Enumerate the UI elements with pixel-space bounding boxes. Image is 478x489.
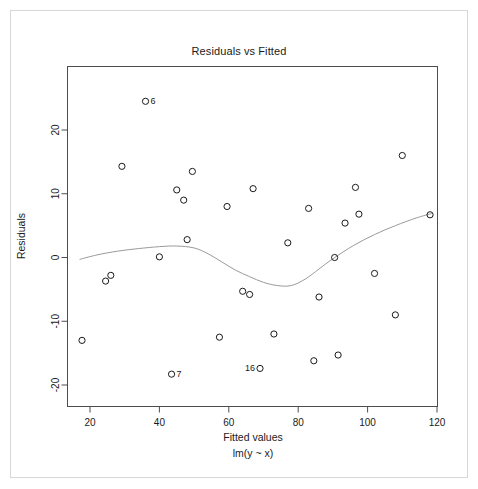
y-axis-title: Residuals xyxy=(15,213,27,259)
plot-frame xyxy=(68,67,438,407)
x-tick-label: 100 xyxy=(359,417,376,428)
x-axis-title: Fitted values xyxy=(223,431,283,443)
x-axis-ticks: 20406080100120 xyxy=(84,407,445,428)
data-point xyxy=(399,152,405,158)
x-tick-label: 40 xyxy=(154,417,166,428)
point-label: 16 xyxy=(245,363,255,373)
data-point xyxy=(156,254,162,260)
lowess-smoother-curve xyxy=(80,214,432,287)
data-point xyxy=(311,358,317,364)
data-point xyxy=(250,186,256,192)
x-axis-subtitle: lm(y ~ x) xyxy=(233,447,274,459)
plot-page: Residuals vs Fitted 20406080100120 20100… xyxy=(0,0,478,489)
x-tick-label: 60 xyxy=(223,417,235,428)
point-label: 7 xyxy=(177,369,182,379)
data-point xyxy=(216,334,222,340)
data-point xyxy=(352,184,358,190)
y-tick-label: -10 xyxy=(50,314,61,329)
data-point xyxy=(103,278,109,284)
data-point xyxy=(174,187,180,193)
data-point xyxy=(240,288,246,294)
x-tick-label: 120 xyxy=(429,417,446,428)
data-point xyxy=(285,240,291,246)
data-point xyxy=(142,98,148,104)
data-point xyxy=(108,272,114,278)
y-tick-label: 10 xyxy=(50,188,61,200)
point-label: 6 xyxy=(151,96,156,106)
data-point xyxy=(271,331,277,337)
x-tick-label: 80 xyxy=(293,417,305,428)
data-point xyxy=(119,163,125,169)
y-tick-label: -20 xyxy=(50,377,61,392)
data-point xyxy=(184,237,190,243)
data-point xyxy=(316,294,322,300)
data-point xyxy=(356,211,362,217)
data-point xyxy=(168,371,174,377)
data-point xyxy=(181,197,187,203)
data-points-layer: 6716 xyxy=(79,96,433,379)
data-point xyxy=(335,352,341,358)
data-point xyxy=(392,312,398,318)
data-point xyxy=(342,220,348,226)
data-point xyxy=(79,337,85,343)
data-point xyxy=(224,203,230,209)
x-tick-label: 20 xyxy=(84,417,96,428)
y-axis-ticks: 20100-10-20 xyxy=(50,124,68,392)
data-point xyxy=(247,291,253,297)
data-point xyxy=(257,365,263,371)
data-point xyxy=(371,270,377,276)
data-point xyxy=(306,205,312,211)
y-tick-label: 20 xyxy=(50,124,61,136)
data-point xyxy=(189,168,195,174)
residuals-vs-fitted-chart: 20406080100120 20100-10-20 6716 Fitted v… xyxy=(0,0,478,489)
y-tick-label: 0 xyxy=(50,254,61,260)
